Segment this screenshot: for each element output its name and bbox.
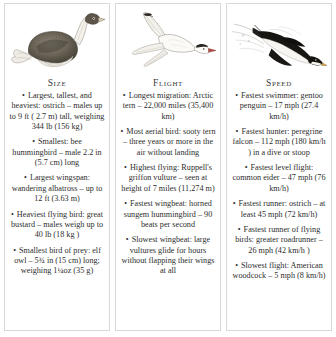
fact-text: Fastest swimmer: gentoo penguin – 17 mph… [240,91,323,121]
panel-title-flight: Flight [153,78,183,88]
list-item: • Longest migration: Arctic tern – 22,00… [119,91,217,122]
fact-text: Smallest bird of prey: elf owl – 5¾ in (… [14,246,101,276]
bullet-icon: • [22,91,26,100]
list-item: • Heaviest flying bird: great bustard – … [8,210,106,241]
bullet-icon: • [126,235,130,244]
list-item: • Most aerial bird: sooty tern – three y… [119,127,217,158]
list-item: • Largest wingspan: wandering albatross … [8,173,106,204]
bullet-icon: • [13,246,17,255]
diving-penguin-illustration [230,7,328,77]
fact-list-speed: • Fastest swimmer: gentoo penguin – 17 m… [230,91,328,326]
list-item: • Slowest flight: American woodcock – 5 … [230,261,328,282]
fact-text: Heaviest flying bird: great bustard – ma… [11,210,103,240]
fact-text: Slowest flight: American woodcock – 5 mp… [232,261,325,280]
list-item: • Largest, tallest, and heaviest: ostric… [8,91,106,132]
bullet-icon: • [124,163,128,172]
fact-list-size: • Largest, tallest, and heaviest: ostric… [8,91,106,326]
bullet-icon: • [236,127,240,136]
bullet-icon: • [24,173,28,182]
bullet-icon: • [124,199,128,208]
bullet-icon: • [11,210,15,219]
bird-records-board: Size • Largest, tallest, and heaviest: o… [0,0,336,337]
list-item: • Slowest wingbeat: large vultures glide… [119,235,217,276]
list-item: • Fastest swimmer: gentoo penguin – 17 m… [230,91,328,122]
list-item: • Smallest bird of prey: elf owl – 5¾ in… [8,246,106,277]
fact-list-flight: • Longest migration: Arctic tern – 22,00… [119,91,217,326]
fact-text: Fastest runner of flying birds: greater … [235,225,323,255]
panel-flight: Flight • Longest migration: Arctic tern … [115,3,221,331]
bullet-icon: • [235,261,239,270]
panel-speed: Speed • Fastest swimmer: gentoo penguin … [226,3,332,331]
bullet-icon: • [121,127,125,136]
list-item: • Fastest wingbeat: horned sungem hummin… [119,199,217,230]
ostrich-illustration [8,7,106,77]
fact-text: Fastest runner: ostrich – at least 45 mp… [238,199,325,218]
list-item: • Fastest hunter: peregrine falcon – 112… [230,127,328,158]
list-item: • Fastest level flight: common eider – 4… [230,163,328,194]
bullet-icon: • [245,163,249,172]
bullet-icon: • [235,91,239,100]
bullet-icon: • [233,199,237,208]
list-item: • Smallest: bee hummingbird – male 2.2 i… [8,137,106,168]
list-item: • Fastest runner: ostrich – at least 45 … [230,199,328,220]
fact-text: Fastest hunter: peregrine falcon – 112 m… [232,127,325,157]
fact-text: Fastest wingbeat: horned sungem hummingb… [124,199,212,229]
panel-title-speed: Speed [266,78,292,88]
bullet-icon: • [238,225,242,234]
panel-title-size: Size [48,78,67,88]
fact-text: Slowest wingbeat: large vultures glide f… [121,235,214,275]
fact-text: Highest flying: Ruppell's griffon vultur… [121,163,214,193]
fact-text: Most aerial bird: sooty tern – three yea… [123,127,216,157]
fact-text: Longest migration: Arctic tern – 22,000 … [123,91,214,121]
bullet-icon: • [32,137,36,146]
list-item: • Fastest runner of flying birds: greate… [230,225,328,256]
bullet-icon: • [123,91,127,100]
panel-size: Size • Largest, tallest, and heaviest: o… [4,3,110,331]
fact-text: Smallest: bee hummingbird – male 2.2 in … [12,137,101,167]
arctic-tern-illustration [119,7,217,77]
list-item: • Highest flying: Ruppell's griffon vult… [119,163,217,194]
